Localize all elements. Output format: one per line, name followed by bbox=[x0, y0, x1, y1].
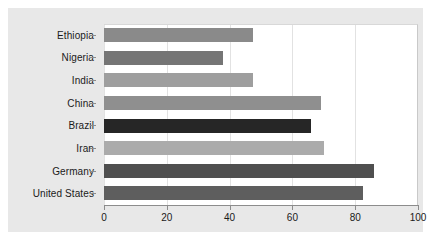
y-label-nigeria: Nigeria bbox=[16, 47, 96, 70]
x-tick-label-20: 20 bbox=[161, 212, 172, 223]
bar-brazil bbox=[104, 119, 311, 133]
bar-row-iran bbox=[104, 137, 418, 160]
y-label-brazil: Brazil bbox=[16, 115, 96, 138]
x-tick-label-60: 60 bbox=[287, 212, 298, 223]
y-tick-icon bbox=[90, 103, 96, 104]
y-label-china: China bbox=[16, 92, 96, 115]
bar-row-nigeria bbox=[104, 47, 418, 70]
x-tick-40 bbox=[230, 205, 231, 210]
bar-united-states bbox=[104, 186, 363, 200]
x-tick-100 bbox=[418, 205, 419, 210]
x-tick-80 bbox=[355, 205, 356, 210]
x-tick-60 bbox=[292, 205, 293, 210]
bar-nigeria bbox=[104, 51, 223, 65]
x-tick-20 bbox=[167, 205, 168, 210]
y-label-text: United States bbox=[33, 188, 94, 199]
bar-iran bbox=[104, 141, 324, 155]
y-axis-labels: Ethiopia Nigeria India China Brazil Iran bbox=[16, 24, 96, 205]
y-tick-icon bbox=[90, 80, 96, 81]
x-tick-label-100: 100 bbox=[410, 212, 427, 223]
y-label-united-states: United States bbox=[16, 182, 96, 205]
figure-canvas: Ethiopia Nigeria India China Brazil Iran bbox=[8, 8, 423, 232]
bar-india bbox=[104, 73, 253, 87]
x-tick-label-40: 40 bbox=[224, 212, 235, 223]
y-label-india: India bbox=[16, 69, 96, 92]
x-tick-0 bbox=[104, 205, 105, 210]
x-axis-line bbox=[104, 205, 418, 206]
bar-series bbox=[104, 24, 418, 205]
y-label-text: Ethiopia bbox=[57, 30, 94, 41]
bar-germany bbox=[104, 164, 374, 178]
bar-row-china bbox=[104, 92, 418, 115]
bar-ethiopia bbox=[104, 28, 253, 42]
y-tick-icon bbox=[90, 171, 96, 172]
y-tick-icon bbox=[90, 35, 96, 36]
y-label-ethiopia: Ethiopia bbox=[16, 24, 96, 47]
bar-row-india bbox=[104, 69, 418, 92]
y-label-text: Germany bbox=[52, 166, 94, 177]
y-tick-icon bbox=[90, 148, 96, 149]
bar-row-ethiopia bbox=[104, 24, 418, 47]
y-tick-icon bbox=[90, 57, 96, 58]
bar-row-germany bbox=[104, 160, 418, 183]
bar-row-brazil bbox=[104, 115, 418, 138]
y-tick-icon bbox=[90, 193, 96, 194]
bar-china bbox=[104, 96, 321, 110]
x-tick-label-80: 80 bbox=[350, 212, 361, 223]
y-tick-icon bbox=[90, 125, 96, 126]
chart-screenshot: Ethiopia Nigeria India China Brazil Iran bbox=[0, 0, 431, 240]
bar-row-united-states bbox=[104, 182, 418, 205]
y-label-iran: Iran bbox=[16, 137, 96, 160]
y-label-germany: Germany bbox=[16, 160, 96, 183]
x-tick-label-0: 0 bbox=[101, 212, 107, 223]
